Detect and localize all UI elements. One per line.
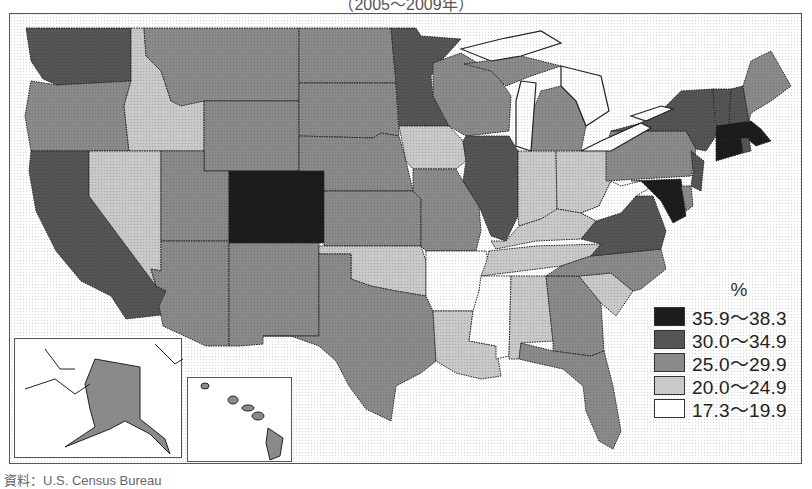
legend-item: 25.0～29.9 bbox=[654, 351, 802, 374]
legend: % 35.9～38.3 30.0～34.9 25.0～29.9 20.0～24.… bbox=[654, 279, 802, 420]
legend-swatch bbox=[654, 330, 685, 349]
state-sd bbox=[299, 83, 399, 138]
state-fl bbox=[519, 343, 621, 449]
legend-swatch bbox=[654, 399, 685, 418]
legend-swatch bbox=[654, 376, 685, 395]
state-wy bbox=[204, 101, 299, 171]
source-caption: 資料：U.S. Census Bureau bbox=[4, 470, 162, 489]
legend-swatch bbox=[654, 307, 685, 326]
legend-item: 30.0～34.9 bbox=[654, 328, 802, 351]
legend-item: 20.0～24.9 bbox=[654, 374, 802, 397]
hawaii-map bbox=[188, 378, 293, 463]
lake-superior bbox=[461, 31, 561, 61]
state-co bbox=[229, 171, 324, 243]
state-or bbox=[25, 81, 131, 151]
hawaii-inset bbox=[187, 377, 292, 462]
state-nd bbox=[299, 28, 396, 83]
alaska-map bbox=[15, 339, 183, 459]
legend-label: 17.3～19.9 bbox=[692, 395, 787, 422]
state-vt bbox=[713, 89, 731, 126]
state-ct bbox=[716, 138, 743, 161]
alaska-inset bbox=[14, 338, 182, 458]
state-wa bbox=[26, 28, 131, 85]
legend-item: 35.9～38.3 bbox=[654, 305, 802, 328]
map-frame: % 35.9～38.3 30.0～34.9 25.0～29.9 20.0～24.… bbox=[9, 13, 802, 464]
state-nm bbox=[229, 243, 319, 346]
legend-item: 17.3～19.9 bbox=[654, 397, 802, 420]
state-me bbox=[743, 51, 791, 121]
state-ks bbox=[324, 191, 421, 246]
state-nj bbox=[691, 151, 704, 191]
legend-unit: % bbox=[674, 279, 802, 301]
state-ia bbox=[399, 126, 466, 169]
legend-swatch bbox=[654, 353, 685, 372]
